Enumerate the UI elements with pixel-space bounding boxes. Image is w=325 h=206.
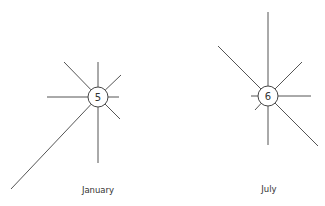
ray-nw [218,46,261,89]
ray-ne [105,75,121,90]
calm-value: 6 [265,91,271,102]
ray-nw [64,62,91,90]
ray-sw [255,103,261,110]
calm-value: 5 [95,92,101,103]
ray-se [275,103,318,146]
wind-rose-diagram: 5January6July [0,0,325,206]
ray-se [105,104,120,119]
wind-rose-january: 5January [11,62,121,195]
wind-rose-july: 6July [218,12,318,194]
month-label: July [260,184,276,194]
ray-sw [11,104,91,189]
roses-layer: 5January6July [11,12,318,195]
month-label: January [81,185,114,195]
ray-ne [275,62,302,89]
